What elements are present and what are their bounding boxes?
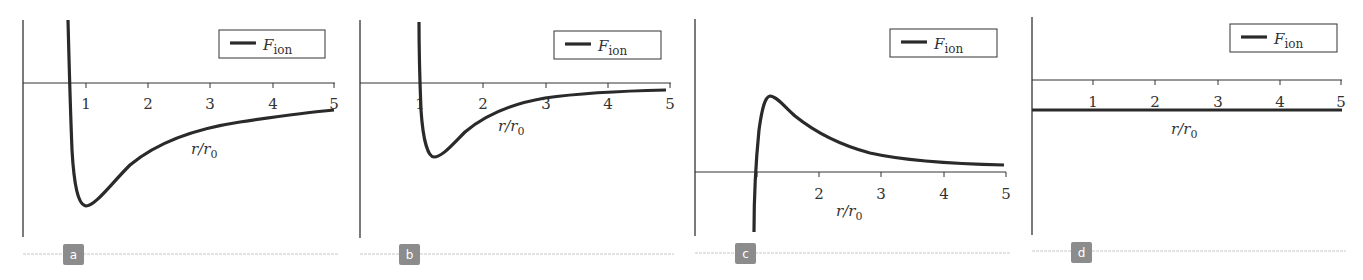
- panel-b: 1 2 3 4 5 r/r0 Fion b: [360, 20, 675, 265]
- panel-d: 1 2 3 4 5 r/r0 Fion d: [1032, 17, 1346, 263]
- tick-label: 2: [478, 95, 488, 113]
- tick-label: 2: [1150, 93, 1160, 111]
- tick-label: 5: [1336, 93, 1346, 111]
- tick-label: 1: [1088, 93, 1098, 111]
- legend: Fion: [219, 30, 325, 58]
- x-axis-title: r/r0: [1171, 120, 1197, 141]
- x-ticks: [86, 83, 334, 88]
- panel-badge-label: a: [70, 248, 77, 262]
- tick-label: 4: [603, 95, 613, 113]
- panel-badge-label: b: [406, 248, 414, 262]
- x-ticks: [420, 83, 670, 88]
- tick-label: 2: [143, 95, 153, 113]
- x-axis-title: r/r0: [498, 117, 524, 138]
- tick-label: 3: [876, 185, 886, 203]
- tick-label: 2: [814, 185, 824, 203]
- x-ticks: [1093, 80, 1341, 85]
- x-ticks: [757, 172, 1006, 177]
- panel-badge-label: c: [742, 247, 749, 261]
- tick-label: 3: [205, 95, 215, 113]
- legend: Fion: [1230, 24, 1337, 52]
- tick-label: 1: [81, 95, 91, 113]
- panel-a: 1 2 3 4 5 r/r0 Fion a: [23, 20, 339, 265]
- x-axis-title: r/r0: [191, 140, 217, 161]
- tick-label: 4: [939, 185, 949, 203]
- tick-label: 4: [1275, 93, 1285, 111]
- tick-label: 5: [1001, 185, 1011, 203]
- figure-panels: 1 2 3 4 5 r/r0 Fion a 1 2 3 4 5 r/r0: [0, 0, 1363, 280]
- legend: Fion: [890, 29, 997, 57]
- tick-label: 4: [268, 95, 278, 113]
- tick-label: 3: [1213, 93, 1223, 111]
- panel-c: 2 3 4 5 r/r0 Fion c: [695, 19, 1011, 264]
- legend: Fion: [554, 31, 661, 59]
- tick-label: 5: [665, 95, 675, 113]
- f-ion-curve: [754, 96, 1004, 232]
- x-axis-title: r/r0: [836, 202, 862, 223]
- panel-badge-label: d: [1078, 246, 1086, 260]
